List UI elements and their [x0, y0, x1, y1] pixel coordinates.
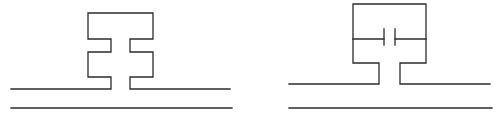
- right-figure: [289, 4, 492, 108]
- left-figure: [11, 13, 232, 108]
- diagram-canvas: [0, 0, 497, 116]
- right-loop-stub: [289, 4, 490, 84]
- left-notched-stub: [11, 13, 230, 89]
